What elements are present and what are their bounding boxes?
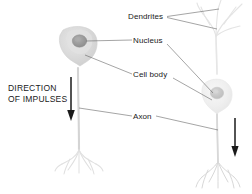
leader-nucleus-right (167, 44, 213, 93)
right-neuron-dendrites (197, 0, 242, 36)
label-direction-of-impulses: DIRECTION OF IMPULSES (8, 83, 67, 104)
right-neuron-dendrite-trunk (216, 36, 217, 74)
left-neuron-terminals (55, 150, 103, 174)
leader-axon-left (79, 108, 132, 116)
right-neuron (196, 0, 242, 188)
label-cell-body: Cell body (133, 70, 167, 80)
neuron-diagram: Dendrites Nucleus Cell body Axon DIRECTI… (0, 0, 252, 194)
right-neuron-axon-shaft (217, 112, 218, 162)
direction-line-2: OF IMPULSES (8, 94, 67, 105)
direction-line-1: DIRECTION (8, 83, 67, 94)
right-neuron-terminals (196, 162, 240, 188)
right-impulse-arrow (231, 118, 238, 157)
left-neuron-nucleus-highlight (75, 37, 81, 42)
label-nucleus: Nucleus (133, 36, 163, 46)
label-axon: Axon (133, 112, 152, 122)
leader-cellbody-left (85, 55, 132, 74)
left-neuron-axon-shaft (78, 68, 79, 150)
leader-axon-right (156, 116, 218, 130)
left-impulse-arrow (67, 77, 75, 121)
leader-dendrites-upper (167, 9, 219, 17)
right-neuron-nucleus-highlight (213, 89, 219, 93)
label-dendrites: Dendrites (128, 12, 163, 22)
